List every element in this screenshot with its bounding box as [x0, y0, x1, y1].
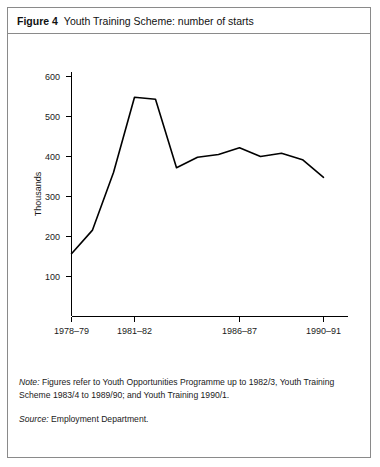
figure-title-bar: Figure 4 Youth Training Scheme: number o…: [8, 8, 370, 34]
source-paragraph: Source: Employment Department.: [19, 413, 358, 426]
source-prefix: Source:: [19, 414, 49, 424]
y-tick-label-500: 500: [45, 112, 60, 122]
x-tick-label-3: 1986–87: [222, 326, 257, 336]
y-tick-label-200: 200: [45, 232, 60, 242]
line-chart-svg: 600 500 400 300 200 100 Thousands 1978–7…: [8, 34, 370, 367]
x-axis-ticks: [72, 317, 324, 323]
figure-card: Figure 4 Youth Training Scheme: number o…: [7, 7, 371, 458]
note-prefix: Note:: [19, 377, 40, 387]
source-text: Employment Department.: [49, 414, 149, 424]
y-tick-label-100: 100: [45, 272, 60, 282]
y-axis-ticks: [66, 77, 72, 277]
x-tick-label-4: 1990–91: [306, 326, 341, 336]
y-axis-title: Thousands: [33, 171, 43, 216]
y-tick-label-400: 400: [45, 152, 60, 162]
note-text: Figures refer to Youth Opportunities Pro…: [19, 377, 334, 400]
y-tick-label-600: 600: [45, 72, 60, 82]
note-paragraph: Note: Figures refer to Youth Opportuniti…: [19, 376, 358, 402]
series-line-starts: [72, 97, 324, 253]
figure-notes: Note: Figures refer to Youth Opportuniti…: [8, 367, 370, 426]
y-tick-label-300: 300: [45, 192, 60, 202]
x-tick-label-1: 1978–79: [54, 326, 89, 336]
x-tick-label-2: 1981–82: [117, 326, 152, 336]
chart-plot-area: 600 500 400 300 200 100 Thousands 1978–7…: [8, 34, 370, 367]
figure-title: Youth Training Scheme: number of starts: [64, 15, 254, 27]
figure-number-label: Figure 4: [17, 15, 58, 27]
